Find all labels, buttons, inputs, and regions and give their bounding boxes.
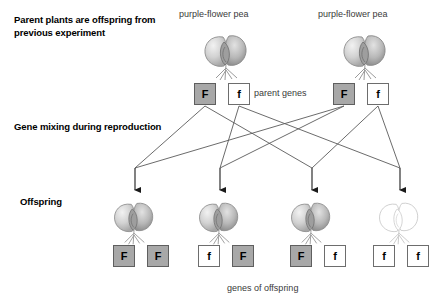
parent-right-allele-1[interactable]: F [333,83,355,105]
parent-left-allele-2[interactable]: f [228,83,250,105]
parent-right-allele-2[interactable]: f [367,83,389,105]
offspring-3-flower-icon [284,196,340,248]
offspring-2-flower-icon [192,196,248,248]
offspring-2-allele-1[interactable]: f [198,245,220,267]
caption-genes-of-offspring: genes of offspring [227,283,298,293]
caption-parent-right: purple-flower pea [318,9,388,19]
caption-parent-left: purple-flower pea [179,9,249,19]
stage-label-gene-mixing: Gene mixing during reproduction [14,121,174,134]
offspring-1-flower-icon [107,196,163,248]
offspring-1-allele-1[interactable]: F [113,245,135,267]
offspring-3-allele-2[interactable]: f [324,245,346,267]
stage-label-parents: Parent plants are offspring from previou… [14,14,174,39]
offspring-3-allele-1[interactable]: F [290,245,312,267]
genetics-diagram: Parent plants are offspring from previou… [0,0,444,301]
offspring-1-allele-2[interactable]: F [147,245,169,267]
parent-left-allele-1[interactable]: F [194,83,216,105]
caption-parent-genes: parent genes [254,88,307,98]
parent-right-flower-icon [338,28,394,84]
offspring-4-flower-icon [372,196,428,248]
offspring-4-allele-2[interactable]: f [407,245,429,267]
offspring-2-allele-2[interactable]: F [232,245,254,267]
parent-left-flower-icon [199,28,255,84]
offspring-4-allele-1[interactable]: f [373,245,395,267]
